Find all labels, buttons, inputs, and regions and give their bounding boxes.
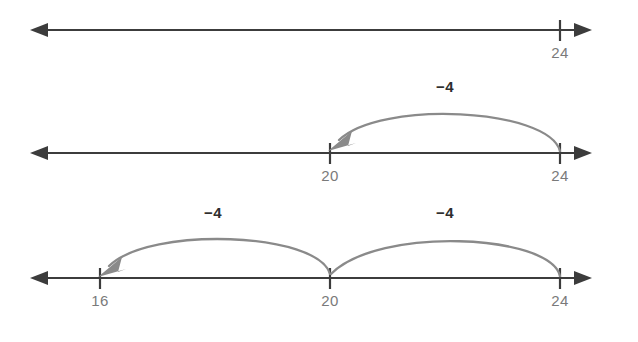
axis-right-arrowhead-3 xyxy=(574,271,592,285)
jump-arc-24-to-20 xyxy=(339,114,560,151)
tick-label-24: 24 xyxy=(551,167,568,184)
jump-arrowhead-20 xyxy=(328,131,356,151)
diagram-canvas: 24 20 24 −4 16 20 24 xyxy=(0,0,638,342)
axis-left-arrowhead-2 xyxy=(30,146,48,160)
tick-label-20: 20 xyxy=(321,292,338,309)
tick-label-20: 20 xyxy=(321,167,338,184)
number-line-3: 16 20 24 −4 −4 xyxy=(30,204,592,309)
axis-right-arrowhead-2 xyxy=(574,146,592,160)
tick-label-24: 24 xyxy=(551,292,568,309)
tick-label-16: 16 xyxy=(91,292,108,309)
axis-left-arrowhead-1 xyxy=(30,23,48,37)
jump-arc-24-to-20 xyxy=(331,241,560,276)
jump-label-minus-4-left: −4 xyxy=(204,204,222,221)
jump-arrowhead-16 xyxy=(98,257,126,277)
axis-left-arrowhead-3 xyxy=(30,271,48,285)
jump-arc-20-to-16 xyxy=(109,239,330,274)
jump-label-minus-4-right: −4 xyxy=(436,204,454,221)
jump-label-minus-4: −4 xyxy=(436,78,454,95)
number-line-2: 20 24 −4 xyxy=(30,78,592,184)
number-line-1: 24 xyxy=(30,20,592,61)
axis-right-arrowhead-1 xyxy=(574,23,592,37)
tick-label-24: 24 xyxy=(551,44,568,61)
number-line-figure: 24 20 24 −4 16 20 24 xyxy=(0,0,638,342)
